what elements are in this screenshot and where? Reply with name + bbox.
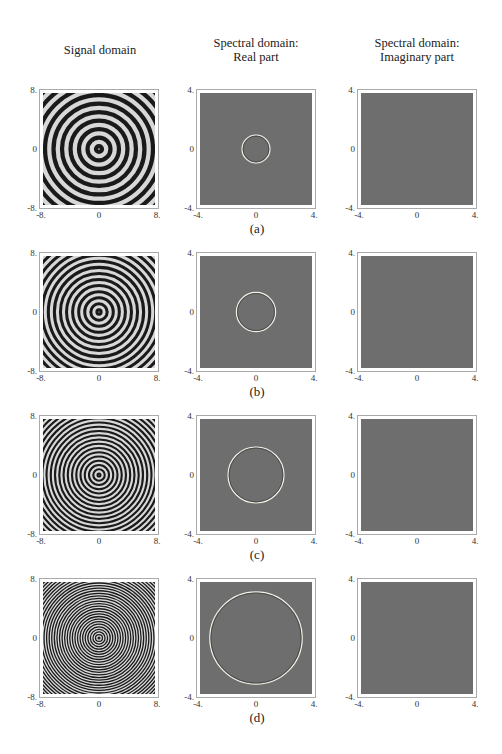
column-title-real: Spectral domain: Real part (186, 36, 326, 64)
y-tick-max: 4. (176, 248, 194, 258)
x-tick-max: 4. (304, 536, 324, 546)
y-tick-mid: 0 (176, 633, 194, 643)
imag-title-line1: Spectral domain: (347, 36, 487, 50)
plot-area (43, 582, 155, 694)
y-tick-max: 4. (176, 574, 194, 584)
signal-panel-0 (39, 89, 159, 209)
spectrum-image (361, 419, 473, 531)
imag-part-panel-1 (357, 252, 477, 372)
x-tick-min: -4. (349, 536, 369, 546)
plot-area (200, 582, 312, 694)
y-tick-max: 8. (19, 574, 37, 584)
spectrum-image (200, 419, 312, 531)
y-tick-mid: 0 (19, 470, 37, 480)
imag-part-panel-3 (357, 578, 477, 698)
ring-pattern (43, 582, 155, 694)
x-tick-mid: 0 (407, 536, 427, 546)
y-tick-max: 4. (337, 411, 355, 421)
y-tick-mid: 0 (19, 633, 37, 643)
y-tick-mid: 0 (337, 144, 355, 154)
x-tick-max: 4. (304, 699, 324, 709)
x-tick-mid: 0 (246, 373, 266, 383)
real-title-line2: Real part (186, 50, 326, 64)
y-tick-mid: 0 (176, 144, 194, 154)
real-part-panel-0 (196, 89, 316, 209)
imag-title-line2: Imaginary part (347, 50, 487, 64)
x-tick-mid: 0 (407, 699, 427, 709)
x-tick-mid: 0 (89, 210, 109, 220)
y-tick-mid: 0 (337, 633, 355, 643)
x-tick-min: -8. (31, 699, 51, 709)
row-caption: (c) (237, 547, 277, 563)
x-tick-max: 4. (304, 373, 324, 383)
plot-area (200, 419, 312, 531)
y-tick-max: 4. (337, 248, 355, 258)
column-title-signal: Signal domain (30, 43, 170, 57)
x-tick-min: -4. (349, 699, 369, 709)
imag-part-panel-2 (357, 415, 477, 535)
y-tick-mid: 0 (176, 470, 194, 480)
x-tick-max: 4. (304, 210, 324, 220)
x-tick-max: 4. (465, 699, 485, 709)
real-title-line1: Spectral domain: (186, 36, 326, 50)
row-caption: (b) (237, 384, 277, 400)
x-tick-max: 8. (147, 373, 167, 383)
imag-part-panel-0 (357, 89, 477, 209)
spectrum-image (361, 256, 473, 368)
x-tick-mid: 0 (407, 373, 427, 383)
x-tick-mid: 0 (407, 210, 427, 220)
x-tick-max: 4. (465, 373, 485, 383)
real-part-panel-1 (196, 252, 316, 372)
plot-area (361, 582, 473, 694)
plot-area (361, 93, 473, 205)
y-tick-max: 4. (337, 85, 355, 95)
ring-pattern (43, 256, 155, 368)
y-tick-max: 4. (176, 85, 194, 95)
y-tick-max: 8. (19, 411, 37, 421)
spectrum-image (200, 93, 312, 205)
real-part-panel-3 (196, 578, 316, 698)
plot-area (43, 256, 155, 368)
x-tick-mid: 0 (89, 699, 109, 709)
signal-panel-2 (39, 415, 159, 535)
y-tick-mid: 0 (176, 307, 194, 317)
plot-area (43, 93, 155, 205)
x-tick-min: -4. (188, 210, 208, 220)
plot-area (200, 93, 312, 205)
y-tick-max: 4. (337, 574, 355, 584)
x-tick-mid: 0 (246, 210, 266, 220)
x-tick-min: -4. (349, 373, 369, 383)
x-tick-mid: 0 (246, 536, 266, 546)
x-tick-max: 4. (465, 210, 485, 220)
plot-area (43, 419, 155, 531)
ring-pattern (43, 93, 155, 205)
spectrum-image (361, 582, 473, 694)
row-caption: (d) (237, 710, 277, 726)
x-tick-min: -4. (188, 373, 208, 383)
x-tick-max: 4. (465, 536, 485, 546)
column-title-imag: Spectral domain: Imaginary part (347, 36, 487, 64)
x-tick-min: -4. (349, 210, 369, 220)
spectrum-image (361, 93, 473, 205)
ring-pattern (43, 419, 155, 531)
x-tick-mid: 0 (89, 536, 109, 546)
real-part-panel-2 (196, 415, 316, 535)
x-tick-max: 8. (147, 536, 167, 546)
signal-title: Signal domain (64, 43, 137, 57)
spectrum-image (200, 256, 312, 368)
x-tick-min: -8. (31, 210, 51, 220)
spectrum-image (200, 582, 312, 694)
plot-area (361, 419, 473, 531)
plot-area (200, 256, 312, 368)
x-tick-min: -8. (31, 536, 51, 546)
y-tick-mid: 0 (337, 470, 355, 480)
x-tick-mid: 0 (246, 699, 266, 709)
y-tick-max: 8. (19, 248, 37, 258)
x-tick-max: 8. (147, 210, 167, 220)
x-tick-min: -8. (31, 373, 51, 383)
y-tick-mid: 0 (19, 307, 37, 317)
row-caption: (a) (237, 221, 277, 237)
y-tick-max: 4. (176, 411, 194, 421)
y-tick-mid: 0 (337, 307, 355, 317)
plot-area (361, 256, 473, 368)
